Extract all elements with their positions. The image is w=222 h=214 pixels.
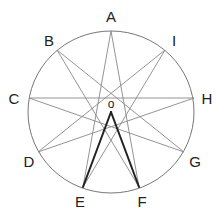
- center-label-o: o: [108, 97, 115, 111]
- highlighted-angle-lines: [83, 112, 139, 187]
- vertex-label-d: D: [24, 153, 35, 170]
- vertex-label-c: C: [9, 90, 20, 107]
- vertex-labels: ABCDEFGHIo: [9, 8, 213, 210]
- highlight-edge-of: [111, 112, 139, 187]
- vertex-label-i: I: [172, 32, 176, 49]
- vertex-label-h: H: [202, 90, 213, 107]
- vertex-label-a: A: [106, 8, 116, 25]
- highlight-edge-oe: [83, 112, 111, 187]
- vertex-label-e: E: [75, 193, 85, 210]
- vertex-label-b: B: [44, 32, 54, 49]
- vertex-label-f: F: [137, 193, 146, 210]
- nonagram-diagram: ABCDEFGHIo: [0, 0, 222, 214]
- vertex-label-g: G: [189, 153, 201, 170]
